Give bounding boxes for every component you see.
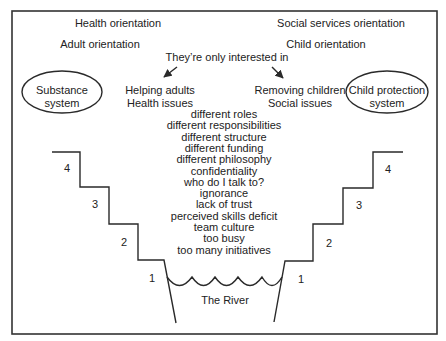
social-services-orientation-label: Social services orientation (277, 17, 405, 29)
child-protection-system-node: Child protection system (346, 71, 428, 113)
substance-system-node: Substance system (22, 71, 102, 113)
barrier-item: too many initiatives (177, 244, 271, 256)
social-issues-label: Social issues (268, 97, 333, 109)
left-step-3-label: 3 (92, 198, 98, 210)
right-step-1-label: 1 (298, 273, 304, 285)
right-step-3-label: 3 (356, 199, 362, 211)
left-step-2-label: 2 (121, 236, 127, 248)
barrier-item: who do I talk to? (183, 176, 264, 188)
left-step-4-label: 4 (64, 162, 70, 174)
health-orientation-label: Health orientation (75, 17, 161, 29)
barrier-item: different responsibilities (167, 119, 282, 131)
left-staircase (52, 152, 176, 323)
barrier-item: too busy (203, 232, 245, 244)
removing-children-label: Removing children (254, 84, 345, 96)
child-orientation-label: Child orientation (286, 38, 366, 50)
barrier-item: confidentiality (191, 165, 258, 177)
barrier-item: perceived skills deficit (171, 210, 277, 222)
barrier-item: different funding (185, 142, 264, 154)
left-step-1-label: 1 (149, 272, 155, 284)
right-step-2-label: 2 (326, 237, 332, 249)
adult-orientation-label: Adult orientation (60, 38, 140, 50)
barrier-item: team culture (194, 221, 255, 233)
substance-system-label-2: system (45, 97, 80, 109)
barrier-item: ignorance (200, 187, 248, 199)
barrier-item: different roles (191, 108, 258, 120)
health-issues-label: Health issues (127, 97, 194, 109)
river-wave-icon (167, 277, 282, 286)
arrow-right-icon (272, 67, 283, 78)
only-interested-in-label: They’re only interested in (166, 51, 289, 63)
arrow-left-icon (164, 67, 177, 77)
right-step-4-label: 4 (385, 163, 391, 175)
barriers-list: different roles different responsibiliti… (167, 108, 282, 256)
child-protection-system-label-2: system (370, 97, 405, 109)
river-label: The River (201, 294, 249, 306)
substance-system-label-1: Substance (36, 84, 88, 96)
barrier-item: lack of trust (196, 198, 252, 210)
child-protection-system-label-1: Child protection (349, 84, 425, 96)
barrier-item: different structure (181, 131, 266, 143)
river-diagram: Health orientation Social services orien… (0, 0, 446, 341)
barrier-item: different philosophy (176, 153, 272, 165)
helping-adults-label: Helping adults (125, 84, 195, 96)
right-staircase (274, 152, 403, 322)
